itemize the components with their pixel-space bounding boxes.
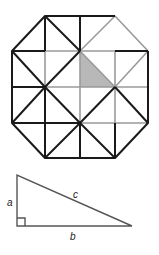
octagon-diagram: [0, 0, 159, 165]
label-a: a: [7, 197, 13, 208]
label-c: c: [73, 189, 78, 200]
right-angle-marker: [17, 218, 25, 226]
right-triangle-diagram: a c b: [0, 160, 159, 255]
label-b: b: [70, 231, 76, 242]
right-triangle: [17, 175, 132, 226]
